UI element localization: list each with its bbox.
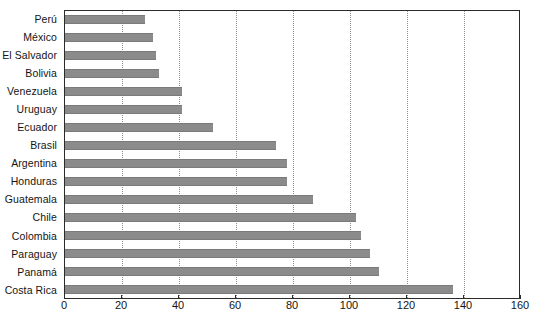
category-label: Honduras — [0, 173, 61, 191]
axis-tick-label: 20 — [115, 300, 127, 311]
category-axis: PerúMéxicoEl SalvadorBoliviaVenezuelaUru… — [0, 10, 61, 299]
bar-row — [65, 226, 519, 244]
bar-row — [65, 190, 519, 208]
bar-row — [65, 11, 519, 29]
bar-row — [65, 119, 519, 137]
category-label: Guatemala — [0, 191, 61, 209]
bar-row — [65, 101, 519, 119]
category-label: Brasil — [0, 136, 61, 154]
bar-row — [65, 172, 519, 190]
value-axis: 020406080100120140160 — [64, 300, 520, 320]
axis-tick-label: 140 — [454, 300, 472, 311]
plot-area — [64, 10, 520, 299]
bar-row — [65, 244, 519, 262]
bar-row — [65, 83, 519, 101]
category-label: Venezuela — [0, 82, 61, 100]
bar-row — [65, 155, 519, 173]
bars-layer — [65, 11, 519, 298]
bar — [65, 231, 361, 240]
bar — [65, 141, 276, 150]
bar — [65, 285, 453, 294]
axis-tick-label: 0 — [61, 300, 67, 311]
bar — [65, 105, 182, 114]
category-label: Colombia — [0, 227, 61, 245]
axis-tick-label: 160 — [511, 300, 529, 311]
bar — [65, 267, 379, 276]
bar-row — [65, 47, 519, 65]
bar — [65, 249, 370, 258]
bar — [65, 33, 153, 42]
category-label: Perú — [0, 10, 61, 28]
category-label: Uruguay — [0, 100, 61, 118]
bar-row — [65, 29, 519, 47]
bar — [65, 177, 287, 186]
axis-tick-label: 100 — [340, 300, 358, 311]
bar — [65, 213, 356, 222]
axis-tick-label: 40 — [172, 300, 184, 311]
bar-row — [65, 65, 519, 83]
category-label: Costa Rica — [0, 281, 61, 299]
category-label: Panamá — [0, 263, 61, 281]
bar — [65, 15, 145, 24]
axis-tick-label: 120 — [397, 300, 415, 311]
category-label: Bolivia — [0, 64, 61, 82]
category-label: Chile — [0, 209, 61, 227]
category-label: Argentina — [0, 155, 61, 173]
bar — [65, 51, 156, 60]
bar-row — [65, 262, 519, 280]
bar — [65, 159, 287, 168]
bar — [65, 123, 213, 132]
category-label: México — [0, 28, 61, 46]
axis-tick-label: 80 — [286, 300, 298, 311]
horizontal-bar-chart: PerúMéxicoEl SalvadorBoliviaVenezuelaUru… — [0, 0, 537, 328]
bar-row — [65, 208, 519, 226]
category-label: Ecuador — [0, 118, 61, 136]
axis-tick-label: 60 — [229, 300, 241, 311]
bar — [65, 87, 182, 96]
category-label: El Salvador — [0, 46, 61, 64]
bar-row — [65, 137, 519, 155]
bar — [65, 69, 159, 78]
category-label: Paraguay — [0, 245, 61, 263]
bar — [65, 195, 313, 204]
